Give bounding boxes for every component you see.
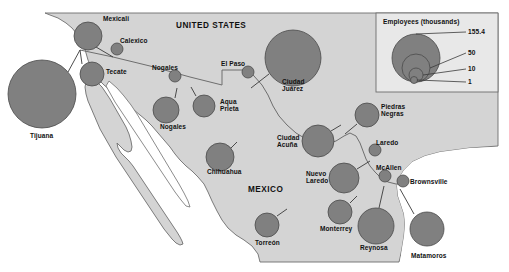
city-circle-nuevo-laredo[interactable] [329, 163, 359, 193]
city-circle-matamoros[interactable] [410, 212, 444, 246]
city-label: Tecate [106, 68, 127, 75]
country-label: UNITED STATES [176, 22, 246, 29]
city-label: Tijuana [30, 132, 53, 139]
maquiladora-employment-map: TijuanaMexicaliCalexicoTecateNogalesNoga… [0, 0, 509, 272]
city-leader-line [68, 50, 80, 72]
city-circle-elpaso[interactable] [242, 66, 254, 78]
city-label: Brownsville [410, 178, 448, 185]
city-circle-tijuana[interactable] [8, 60, 76, 128]
city-circle-piedras-negras[interactable] [355, 103, 379, 127]
city-circle-brownsville[interactable] [397, 175, 409, 187]
city-label: Nuevo Laredo [306, 170, 328, 185]
city-circle-calexico[interactable] [111, 43, 123, 55]
city-label: Nogales [160, 123, 186, 130]
city-circle-torren[interactable] [255, 213, 279, 237]
city-circle-ciudad-acua[interactable] [302, 125, 334, 157]
legend-value-label: 155.4 [468, 28, 485, 35]
legend-title: Employees (thousands) [383, 18, 459, 25]
city-circle-nogales[interactable] [153, 97, 179, 123]
city-label: Calexico [120, 37, 148, 44]
city-circle-mcallen[interactable] [379, 170, 391, 182]
city-label: Piedras Negras [381, 103, 405, 118]
city-label: El Paso [221, 60, 245, 67]
city-circle-monterrey[interactable] [328, 200, 352, 224]
city-label: Ciudad Juárez [282, 78, 305, 93]
legend-value-label: 50 [468, 49, 476, 56]
city-label: McAllen [376, 164, 402, 171]
city-label: Laredo [376, 139, 398, 146]
city-label: Ciudad Acuña [277, 134, 300, 149]
legend-value-label: 10 [468, 65, 476, 72]
city-circle-tecate[interactable] [80, 62, 104, 86]
city-circle-chihuahua[interactable] [206, 143, 234, 171]
city-leader-line [80, 50, 82, 64]
city-label: Nogales [152, 64, 178, 71]
city-label: Chihuahua [207, 168, 241, 175]
city-label: Reynosa [360, 244, 388, 251]
city-label: Aqua Prieta [220, 98, 239, 113]
city-circle-reynosa[interactable] [358, 208, 394, 244]
city-circle-nogales[interactable] [169, 70, 181, 82]
map-canvas [0, 0, 509, 272]
legend-value-label: 1 [468, 78, 472, 85]
city-label: Matamoros [411, 252, 447, 259]
city-label: Torreón [255, 239, 280, 246]
city-label: Mexicali [103, 15, 129, 22]
country-label: MEXICO [248, 186, 283, 193]
city-circle-aqua-prieta[interactable] [193, 95, 215, 117]
city-circle-mexicali[interactable] [74, 22, 102, 50]
legend-circle-1 [411, 77, 418, 84]
city-label: Monterrey [320, 225, 352, 232]
